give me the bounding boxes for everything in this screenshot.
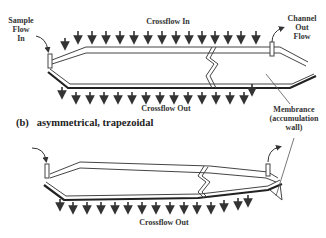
label-line: Out (282, 23, 322, 32)
label-line: Flow (282, 32, 322, 41)
crossflow-out-label-b: Crossflow Out (124, 218, 204, 227)
channel-b (44, 162, 282, 200)
crossflow-out-label-a: Crossflow Out (126, 104, 206, 113)
label-line: Flow (4, 25, 38, 34)
label-line: In (4, 34, 38, 43)
channel-out-arrow-a (272, 28, 282, 42)
label-line: Sample (4, 16, 38, 25)
channel-a (48, 42, 316, 88)
sample-in-arrow-b (32, 148, 46, 160)
caption-b: (b) asymmetrical, trapezoidal (16, 117, 153, 128)
sample-flow-in-label: Sample Flow In (4, 16, 38, 43)
label-line: wall) (262, 123, 326, 132)
label-line: Channel (282, 14, 322, 23)
label-line: (accumulation (262, 114, 326, 123)
channel-out-flow-label: Channel Out Flow (282, 14, 322, 41)
channel-out-arrow-b (268, 147, 279, 162)
crossflow-out-arrows-b (60, 195, 248, 210)
crossflow-in-arrows-a (65, 31, 256, 46)
crossflow-out-arrows-a (62, 84, 252, 100)
label-line: Membrance (262, 105, 326, 114)
membrane-label: Membrance (accumulation wall) (262, 105, 326, 132)
crossflow-in-label: Crossflow In (128, 17, 208, 26)
